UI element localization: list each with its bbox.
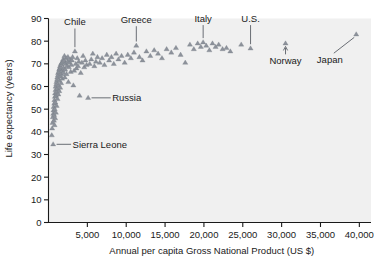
y-tick-label: 80 — [31, 36, 42, 47]
annotation-label-norway: Norway — [269, 55, 301, 66]
chart-figure: 01020304050607080905,00010,00015,00020,0… — [0, 0, 377, 267]
y-axis-title: Life expectancy (years) — [3, 59, 14, 157]
y-tick-label: 50 — [31, 104, 42, 115]
y-tick-label: 20 — [31, 172, 42, 183]
y-tick-label: 60 — [31, 81, 42, 92]
x-tick-label: 20,000 — [189, 229, 218, 240]
annotation-label-chile: Chile — [64, 16, 86, 27]
annotation-label-italy: Italy — [194, 13, 212, 24]
x-tick-label: 10,000 — [112, 229, 141, 240]
annotation-label-greece: Greece — [121, 14, 152, 25]
x-tick-label: 35,000 — [306, 229, 335, 240]
annotation-label-russia: Russia — [112, 92, 142, 103]
y-tick-label: 30 — [31, 149, 42, 160]
annotation-label-u-s: U.S. — [241, 13, 259, 24]
x-tick-label: 25,000 — [228, 229, 257, 240]
scatter-plot: 01020304050607080905,00010,00015,00020,0… — [0, 0, 377, 267]
annotation-label-sierra-leone: Sierra Leone — [73, 139, 127, 150]
y-tick-label: 40 — [31, 126, 42, 137]
x-axis-title: Annual per capita Gross National Product… — [109, 245, 314, 256]
x-tick-label: 40,000 — [345, 229, 374, 240]
x-tick-label: 5,000 — [75, 229, 99, 240]
y-tick-label: 0 — [36, 217, 41, 228]
x-tick-label: 30,000 — [267, 229, 296, 240]
y-tick-label: 10 — [31, 194, 42, 205]
x-axis: 5,00010,00015,00020,00025,00030,00035,00… — [75, 223, 373, 241]
annotation-label-japan: Japan — [317, 54, 343, 65]
plot-svg: 01020304050607080905,00010,00015,00020,0… — [0, 0, 377, 267]
y-tick-label: 70 — [31, 58, 42, 69]
y-axis: 0102030405060708090 — [31, 13, 49, 228]
y-tick-label: 90 — [31, 13, 42, 24]
x-tick-label: 15,000 — [151, 229, 180, 240]
